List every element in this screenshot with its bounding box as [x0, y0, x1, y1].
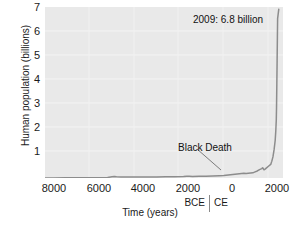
era-label-ce: CE: [214, 197, 254, 208]
population-chart: Human population (billions) 7 6 5 4 3 2 …: [0, 0, 295, 235]
x-axis-title: Time (years): [95, 207, 205, 218]
era-divider: [209, 195, 210, 212]
annotation-black-death: Black Death: [178, 142, 232, 153]
x-tick-label: 2000: [247, 183, 295, 194]
annotation-2009-peak: 2009: 6.8 billion: [193, 14, 263, 25]
